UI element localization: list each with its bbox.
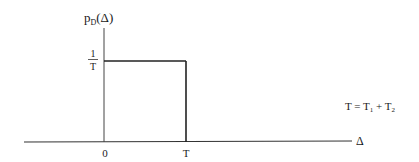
x-axis: [24, 141, 352, 142]
y-axis-label: pD(Δ): [84, 10, 113, 27]
svg-text:1: 1: [91, 48, 96, 59]
uniform-density-diagram: pD(Δ) 1 T 0 T Δ T = T1 + T2: [0, 0, 419, 162]
x-tick-zero: 0: [102, 147, 108, 159]
x-tick-t: T: [183, 147, 190, 159]
y-tick-one-over-t: 1 T: [88, 48, 98, 72]
svg-text:T: T: [90, 61, 96, 72]
period-annotation: T = T1 + T2: [345, 100, 395, 114]
x-axis-label: Δ: [356, 134, 364, 148]
